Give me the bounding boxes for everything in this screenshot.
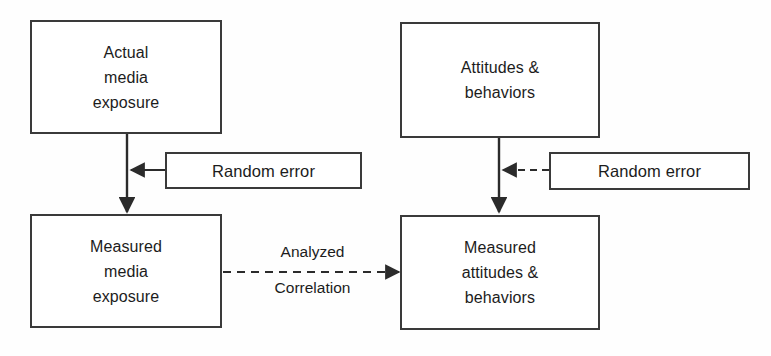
node-measured-media-exposure: Measured media exposure [30,214,222,328]
node-random-error-left: Random error [165,152,362,189]
diagram-canvas: Actual media exposure Attitudes & behavi… [0,0,771,356]
edge-label-analyzed: Analyzed [235,243,390,261]
node-attitudes-behaviors: Attitudes & behaviors [400,22,600,138]
edge-label-correlation: Correlation [235,279,390,297]
node-actual-media-exposure: Actual media exposure [30,20,222,134]
node-measured-attitudes-behaviors: Measured attitudes & behaviors [400,215,600,330]
node-random-error-right: Random error [549,152,750,190]
